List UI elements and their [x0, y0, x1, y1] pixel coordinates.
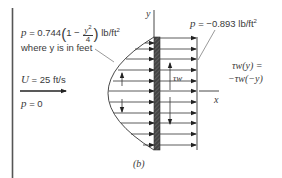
u-symbol: U	[21, 73, 29, 85]
upstream-pressure-curve	[108, 37, 154, 150]
fraction: y2 4	[83, 23, 92, 44]
freestream-pressure-value: = 0	[29, 98, 42, 109]
p-symbol: p	[21, 97, 27, 109]
freestream-pressure-label: p = 0	[21, 98, 43, 109]
velocity-value: = 25 ft/s	[32, 74, 66, 85]
p-symbol: p	[21, 26, 27, 38]
units: lb/ft	[101, 27, 116, 38]
plate	[154, 37, 160, 150]
downstream-leader	[198, 30, 215, 60]
units-exponent: 2	[254, 18, 257, 24]
figure-caption: (b)	[133, 158, 145, 169]
shear-relation-line1: τw(y) =	[232, 60, 263, 71]
p-symbol: p	[190, 17, 196, 29]
downstream-pressure-label: p = −0.893 lb/ft2	[190, 16, 257, 29]
downstream-pressure-value: = −0.893 lb/ft	[198, 18, 253, 29]
shear-stress-arrows	[122, 63, 170, 124]
freestream-velocity-label: U = 25 ft/s	[21, 74, 66, 85]
equals-sign: =	[29, 27, 35, 38]
upstream-pressure-arrows	[109, 43, 154, 145]
units-exponent: 2	[117, 27, 120, 33]
upstream-pressure-equation: p = 0.744(1 − y2 4 ) lb/ft2	[21, 23, 120, 44]
upstream-note: where y is in feet	[21, 42, 92, 53]
shear-relation-line2: −τw(−y)	[228, 73, 263, 84]
x-axis-label: x	[214, 94, 218, 105]
y-axis-label: y	[146, 8, 150, 19]
one: 1	[66, 27, 71, 38]
upstream-leader	[95, 49, 114, 62]
shear-stress-label: τw	[173, 73, 182, 84]
coefficient: 0.744	[37, 27, 61, 38]
numerator-exponent: 2	[88, 24, 91, 30]
downstream-pressure-arrows	[160, 38, 196, 145]
minus-sign: −	[74, 27, 80, 38]
